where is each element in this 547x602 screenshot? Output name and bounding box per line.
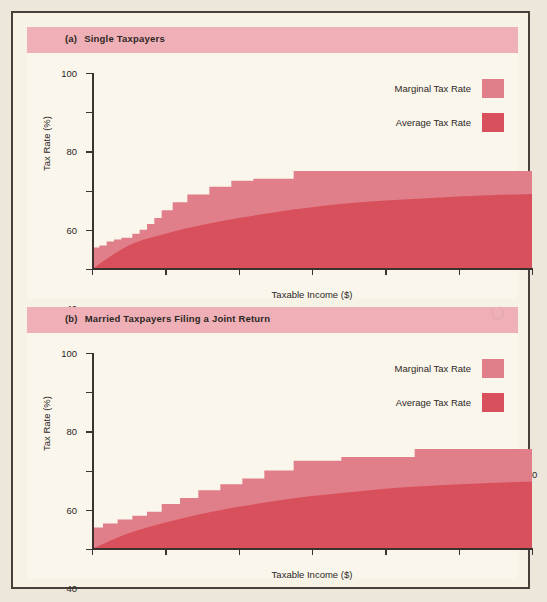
chart-panel-a: (a)Single Taxpayers Marginal Tax Rate Av… (27, 27, 518, 299)
y-tick: 40 (86, 191, 92, 192)
figure-canvas: (a)Single Taxpayers Marginal Tax Rate Av… (0, 0, 547, 602)
y-tick: 40 (86, 471, 92, 472)
chart-panel-b: (b)Married Taxpayers Filing a Joint Retu… (27, 307, 518, 579)
x-tick: 100 (459, 269, 460, 275)
figure-frame: (a)Single Taxpayers Marginal Tax Rate Av… (11, 11, 530, 589)
y-tick-label: 60 (66, 224, 77, 235)
panel-b-y-axis-label: Tax Rate (%) (41, 396, 52, 451)
panel-a-x-axis-label: Taxable Income ($) (272, 289, 353, 300)
x-tick: 0 (92, 269, 93, 275)
x-tick: 120 (532, 549, 533, 555)
panel-b-y-axis (92, 353, 94, 549)
panel-b-plot-area (92, 353, 532, 549)
panel-a-plot: 020406080100 020406080100120 (92, 73, 532, 269)
y-tick-label: 60 (66, 504, 77, 515)
y-tick-label: 100 (61, 348, 77, 359)
panel-b-plot: 020406080100 020406080100120 (92, 353, 532, 549)
panel-b-tag: (b) (65, 313, 78, 324)
panel-b-title: (b)Married Taxpayers Filing a Joint Retu… (65, 313, 270, 324)
x-tick: 40 (239, 269, 240, 275)
x-tick: 60 (312, 269, 313, 275)
panel-b-x-axis-label: Taxable Income ($) (272, 569, 353, 580)
panel-a-series-svg (92, 73, 532, 269)
panel-a-y-axis-label: Tax Rate (%) (41, 116, 52, 171)
y-tick: 80 (86, 112, 92, 113)
x-tick: 60 (312, 549, 313, 555)
x-tick: 0 (92, 549, 93, 555)
panel-b-series-svg (92, 353, 532, 549)
panel-a-title-text: Single Taxpayers (84, 33, 165, 44)
x-tick: 100 (459, 549, 460, 555)
y-tick: 20 (86, 510, 92, 511)
panel-a-tag: (a) (65, 33, 77, 44)
y-tick-label: 40 (66, 583, 77, 594)
panel-a-title: (a)Single Taxpayers (65, 33, 165, 44)
x-tick: 120 (532, 269, 533, 275)
y-tick-label: 80 (66, 146, 77, 157)
x-tick: 80 (385, 269, 386, 275)
panel-b-title-text: Married Taxpayers Filing a Joint Return (85, 313, 271, 324)
y-tick: 100 (86, 353, 92, 354)
x-tick: 20 (165, 269, 166, 275)
y-tick-label: 100 (61, 68, 77, 79)
x-tick: 40 (239, 549, 240, 555)
x-tick: 20 (165, 549, 166, 555)
y-tick: 60 (86, 431, 92, 432)
x-tick: 80 (385, 549, 386, 555)
panel-a-y-axis (92, 73, 94, 269)
y-tick: 100 (86, 73, 92, 74)
y-tick: 80 (86, 392, 92, 393)
panel-a-plot-area (92, 73, 532, 269)
y-tick: 20 (86, 230, 92, 231)
y-tick-label: 80 (66, 426, 77, 437)
y-tick: 60 (86, 151, 92, 152)
